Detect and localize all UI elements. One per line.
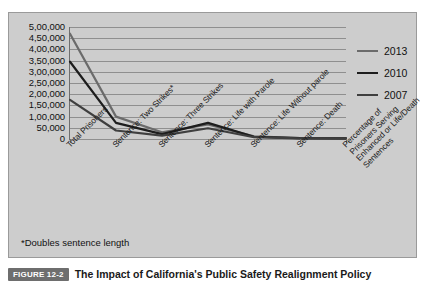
y-axis-tick-label: 1,50,000 xyxy=(29,101,65,111)
legend-label: 2010 xyxy=(384,68,407,79)
y-axis-tick-label: 2,50,000 xyxy=(29,78,65,88)
chart-legend: 201320102007 xyxy=(357,40,419,106)
y-axis-tick-label: 1,00,000 xyxy=(29,112,65,122)
legend-swatch-2010 xyxy=(357,72,378,75)
legend-item: 2007 xyxy=(357,84,419,106)
figure-caption-row: FIGURE 12-2 The Impact of California's P… xyxy=(8,266,371,282)
chart-footnote: *Doubles sentence length xyxy=(21,237,129,248)
plot-wrapper: 5,00,0004,50,0004,00,0003,50,0003,00,000… xyxy=(9,13,418,259)
legend-item: 2010 xyxy=(357,62,419,84)
legend-label: 2013 xyxy=(384,46,407,57)
y-axis-tick-label: 3,50,000 xyxy=(29,56,65,66)
plot-area xyxy=(69,27,346,140)
y-axis-tick-label: 4,00,000 xyxy=(29,45,65,55)
y-axis-tick-label: 4,50,000 xyxy=(29,33,65,43)
figure-number-badge: FIGURE 12-2 xyxy=(8,268,69,281)
y-axis-tick-label: 3,00,000 xyxy=(29,67,65,77)
y-axis-tick-labels: 5,00,0004,50,0004,00,0003,50,0003,00,000… xyxy=(13,26,65,139)
figure-container: 5,00,0004,50,0004,00,0003,50,0003,00,000… xyxy=(0,0,427,292)
figure-caption-text: The Impact of California's Public Safety… xyxy=(75,268,372,280)
legend-swatch-2013 xyxy=(357,50,378,53)
y-axis-tick-label: 50,000 xyxy=(37,123,65,133)
x-axis-category-labels: Total PrisonersSentence: Two Strikes*Sen… xyxy=(9,139,418,249)
legend-swatch-2007 xyxy=(357,94,378,97)
legend-label: 2007 xyxy=(384,90,407,101)
chart-panel: 5,00,0004,50,0004,00,0003,50,0003,00,000… xyxy=(8,12,417,258)
y-axis-tick-label: 5,00,000 xyxy=(29,22,65,32)
y-axis-tick-label: 2,00,000 xyxy=(29,89,65,99)
series-lines xyxy=(70,27,346,139)
legend-item: 2013 xyxy=(357,40,419,62)
